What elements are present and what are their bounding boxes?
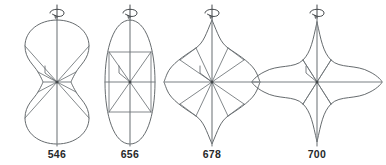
figure-panel: 546 656 bbox=[0, 0, 386, 165]
panel-label-700: 700 bbox=[308, 148, 327, 160]
figure-svg: 546 656 bbox=[0, 0, 386, 165]
chord-700-tr bbox=[317, 60, 331, 82]
center-point-546 bbox=[56, 81, 59, 84]
rotation-axis-symbol-656 bbox=[123, 5, 137, 18]
chord-678-bl bbox=[180, 104, 196, 116]
chord-678-br bbox=[228, 104, 244, 116]
spoke-656-a bbox=[109, 52, 130, 82]
center-point-656 bbox=[129, 81, 132, 84]
rotation-axis-symbol-546 bbox=[50, 5, 64, 18]
panel-label-678: 678 bbox=[203, 148, 222, 160]
chord-700-br bbox=[317, 82, 331, 104]
chord-700-bl bbox=[303, 82, 317, 104]
chord-678-tr bbox=[228, 48, 244, 60]
chord-678-tl bbox=[180, 48, 196, 60]
chord-700-tl bbox=[303, 60, 317, 82]
panel-678: 678 bbox=[164, 5, 260, 160]
spoke-656-c bbox=[109, 82, 130, 112]
panel-label-546: 546 bbox=[48, 148, 67, 160]
spoke-656-b bbox=[130, 52, 151, 82]
center-point-678 bbox=[211, 81, 214, 84]
panel-label-656: 656 bbox=[121, 148, 140, 160]
panel-656: 656 bbox=[105, 5, 155, 160]
panel-546: 546 bbox=[25, 5, 89, 160]
rotation-axis-symbol-700 bbox=[310, 5, 324, 18]
spoke-656-d bbox=[130, 82, 151, 112]
center-point-700 bbox=[316, 81, 319, 84]
rotation-axis-symbol-678 bbox=[205, 5, 219, 18]
panel-700: 700 bbox=[252, 5, 382, 160]
